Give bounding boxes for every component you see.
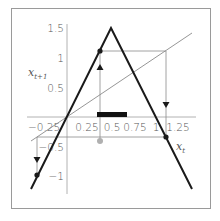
- y-tick-1-5: 1.5: [47, 22, 64, 34]
- x-tick-1-25: 1.25: [166, 121, 189, 133]
- y-axis-label: xt+1: [28, 66, 47, 81]
- orbit-point: [163, 134, 168, 139]
- x-tick-minus-0-25: −0.25: [28, 121, 60, 133]
- x-tick-0-75: 0.75: [123, 121, 146, 133]
- x-tick-0-25: 0.25: [75, 121, 98, 133]
- arrow-down-icon: [163, 102, 170, 108]
- orbit-point: [34, 172, 39, 177]
- arrow-down-icon: [34, 157, 41, 163]
- figure-frame: [12, 9, 211, 209]
- interval-bar: [97, 112, 127, 117]
- arrow-up-icon: [97, 64, 104, 70]
- y-tick-minus-1: −1: [49, 170, 64, 182]
- grey-point: [97, 138, 103, 144]
- x-axis-label: xt: [176, 140, 185, 155]
- y-tick-1: 1: [57, 52, 64, 64]
- orbit-point: [97, 48, 102, 53]
- x-tick-0-5: 0.5: [104, 121, 121, 133]
- tent-map-curve: [31, 28, 192, 189]
- y-tick-0-5: 0.5: [47, 82, 64, 94]
- tent-map-diagram: 1.5 1 0.5 −0.5 −1 −0.25 0.25 0.5 0.75 1 …: [0, 0, 220, 221]
